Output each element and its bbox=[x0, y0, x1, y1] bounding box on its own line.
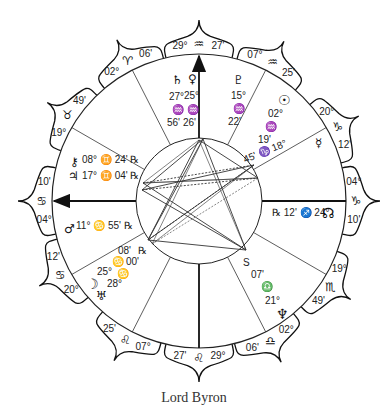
cusp-minutes: 27' bbox=[173, 350, 186, 361]
uranus-degree: 28° bbox=[107, 278, 122, 289]
neptune-sign: ♎ bbox=[261, 280, 273, 293]
moon-degree: 25° bbox=[97, 266, 112, 277]
cusp-minutes: 06' bbox=[246, 342, 259, 353]
north-node-icon: ☊ bbox=[322, 205, 334, 221]
pluto-minutes: 22' bbox=[228, 116, 241, 127]
chart-title: Lord Byron bbox=[161, 390, 227, 405]
cusp-degree: 20° bbox=[64, 284, 79, 295]
cusp-minutes: 25' bbox=[103, 323, 116, 334]
cusp-degree: 07° bbox=[136, 341, 151, 352]
saturn-sign: ♒ bbox=[172, 103, 184, 116]
aspect-line bbox=[143, 178, 258, 183]
aspect-line bbox=[199, 140, 246, 250]
mars-position: 11° ♋ 55' ℞ bbox=[76, 219, 133, 232]
cusp-sign-icon: ♋ bbox=[37, 194, 48, 208]
cusp-minutes: 27' bbox=[211, 40, 224, 51]
cusp-minutes: 10' bbox=[347, 214, 360, 225]
neptune-icon: ♆ bbox=[276, 306, 289, 322]
chiron-position: 08° ♊ 24' ℞ bbox=[82, 153, 140, 166]
cusp-sign-icon: ♉ bbox=[62, 108, 73, 122]
pluto-icon: ♇ bbox=[233, 73, 244, 87]
pluto-degree: 15° bbox=[231, 90, 246, 101]
cusp-sign-icon: ♌ bbox=[194, 351, 205, 365]
moon-retro: ℞ bbox=[138, 245, 147, 256]
cusp-minutes: 12' bbox=[338, 139, 351, 150]
mercury-icon: ☿ bbox=[315, 136, 322, 150]
cusp-degree: 04° bbox=[346, 176, 361, 187]
mars-icon: ♂ bbox=[64, 222, 75, 236]
saturn-icon: ♄ bbox=[172, 73, 183, 87]
cusp-degree: 07° bbox=[247, 49, 262, 60]
cusp-sign-icon: ♏ bbox=[325, 280, 336, 294]
cusp-sign-icon: ♒ bbox=[194, 37, 205, 51]
aspect-line bbox=[142, 178, 258, 190]
angle-axes bbox=[54, 56, 346, 348]
cusp-degree: 02° bbox=[104, 66, 119, 77]
neptune-minutes: 07' bbox=[251, 269, 264, 280]
saturn-minutes: 56' bbox=[167, 117, 180, 128]
pluto-sign: ♒ bbox=[233, 102, 245, 115]
cusp-minutes: 49' bbox=[73, 95, 86, 106]
sun-sign: ♒ bbox=[265, 120, 277, 133]
venus-sign: ♒ bbox=[187, 103, 199, 116]
cusp-degree: 04° bbox=[37, 214, 52, 225]
saturn-degree: 27° bbox=[169, 91, 184, 102]
cusp-sign-icon: ♋ bbox=[55, 268, 66, 282]
cusp-sign-icon: ♌ bbox=[120, 333, 131, 347]
cusp-sign-icon: ♑ bbox=[351, 194, 362, 208]
house-cusp-line bbox=[132, 257, 170, 332]
sun-degree: 02° bbox=[268, 108, 283, 119]
moon-minutes: 08' bbox=[118, 245, 131, 256]
chiron-icon: ⚷ bbox=[70, 155, 79, 169]
neptune-degree: 21° bbox=[265, 295, 280, 306]
aspect-line bbox=[142, 165, 254, 190]
neptune-station: S bbox=[243, 257, 250, 268]
cusp-degree: 20° bbox=[319, 106, 334, 117]
venus-icon: ♀ bbox=[188, 72, 197, 86]
venus-minutes: 26' bbox=[183, 117, 196, 128]
aspect-line bbox=[203, 139, 246, 250]
cusp-degree: 29° bbox=[210, 350, 225, 361]
cusp-degree: 02° bbox=[279, 324, 294, 335]
cusp-minutes: 25' bbox=[282, 67, 295, 78]
cusp-sign-icon: ♒ bbox=[267, 55, 278, 69]
cusp-sign-icon: ♎ bbox=[265, 334, 276, 348]
cusp-minutes: 49' bbox=[312, 295, 325, 306]
moon-sign: ♋ bbox=[112, 255, 124, 268]
venus-degree: 25° bbox=[184, 90, 199, 101]
house-cusp-line bbox=[254, 233, 327, 275]
jupiter-icon: ♃ bbox=[68, 169, 79, 183]
uranus-icon: ♅ bbox=[96, 289, 107, 303]
jupiter-position: 17° ♊ 04' ℞ bbox=[82, 169, 140, 182]
cusp-degree: 19° bbox=[51, 127, 66, 138]
sun-icon: ☉ bbox=[278, 92, 291, 108]
cusp-minutes: 12' bbox=[47, 251, 60, 262]
aspect-lines bbox=[142, 139, 258, 250]
north-node-position: ℞ 12' ♐ 24° bbox=[272, 206, 330, 219]
cusp-sign-icon: ♑ bbox=[332, 120, 343, 134]
cusp-degree: 19° bbox=[332, 263, 347, 274]
cusp-sign-icon: ♈ bbox=[122, 54, 133, 68]
house-cusp-line bbox=[132, 70, 170, 145]
cusp-minutes: 10' bbox=[38, 176, 51, 187]
cusp-degree: 29° bbox=[172, 40, 187, 51]
cusp-minutes: 06' bbox=[139, 48, 152, 59]
natal-chart: 29°♒27'07°♒25'20°♑12'04°♑10'19°♏49'02°♎0… bbox=[0, 0, 389, 415]
uranus-minutes: 00' bbox=[126, 256, 139, 267]
